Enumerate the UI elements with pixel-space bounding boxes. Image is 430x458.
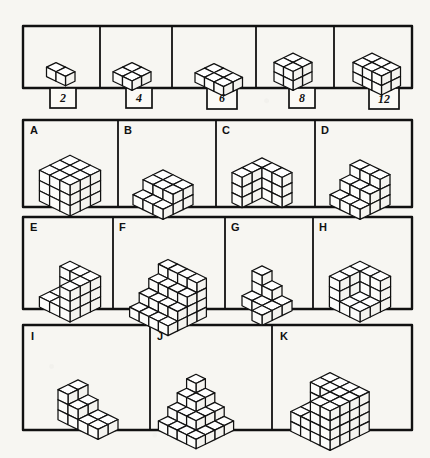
count-label-5: 12 (369, 92, 399, 107)
figure-label-c: C (222, 124, 230, 136)
count-label-3: 6 (207, 91, 237, 106)
figure-d-cubes (330, 160, 390, 220)
figure-b-cubes (133, 170, 193, 219)
figure-label-f: F (119, 221, 126, 233)
count-label-2: 4 (126, 91, 152, 106)
figure-label-k: K (280, 330, 288, 342)
figure-label-h: H (319, 221, 327, 233)
figure-label-e: E (30, 221, 37, 233)
figure-h-cubes (329, 261, 390, 322)
figure-label-i: I (31, 330, 34, 342)
figure-label-a: A (30, 124, 38, 136)
figure-label-j: J (157, 330, 163, 342)
reference-cubes-8 (274, 53, 312, 90)
figure-label-d: D (321, 124, 329, 136)
figure-j-cubes (158, 374, 233, 449)
figure-e-cubes (39, 261, 100, 322)
reference-cubes-2 (47, 63, 76, 86)
cube-figures (39, 53, 400, 450)
figure-k-cubes (291, 373, 369, 451)
figure-label-b: B (124, 124, 132, 136)
reference-cubes-4 (113, 63, 151, 91)
figure-label-g: G (231, 221, 240, 233)
count-label-4: 8 (289, 91, 315, 106)
figure-c-cubes (232, 158, 292, 208)
worksheet-canvas: .fr { fill:none; stroke:#111; stroke-wid… (0, 0, 430, 458)
count-label-1: 2 (50, 91, 76, 106)
figure-g-cubes (242, 266, 292, 326)
